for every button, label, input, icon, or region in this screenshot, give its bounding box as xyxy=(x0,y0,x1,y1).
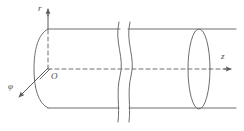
diagram-canvas: r z φ O xyxy=(0,0,244,131)
cylinder-left-cap-arc xyxy=(34,29,48,108)
z-axis-label: z xyxy=(220,51,225,61)
phi-axis-arrowhead xyxy=(19,90,26,97)
phi-axis-label: φ xyxy=(8,81,13,91)
origin-label: O xyxy=(51,71,58,81)
cylindrical-coordinate-diagram: r z φ O xyxy=(0,0,244,131)
break-line-right xyxy=(129,22,133,122)
break-line-left xyxy=(118,22,122,122)
r-axis-label: r xyxy=(38,3,42,13)
